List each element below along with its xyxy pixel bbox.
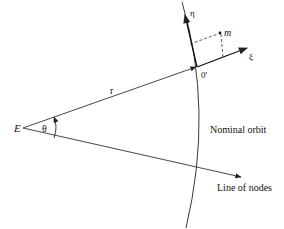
eta-axis <box>185 15 197 67</box>
origin-label: 0' <box>201 70 208 80</box>
mass-point <box>219 32 222 35</box>
mass-label: m <box>224 27 231 38</box>
earth-label: E <box>13 122 21 134</box>
theta-label: θ <box>42 123 47 134</box>
orbit-diagram: E θ r 0' η ξ m Nominal orbit Line of nod… <box>0 0 284 229</box>
nominal-orbit-curve <box>182 2 199 228</box>
nominal-orbit-label: Nominal orbit <box>210 124 267 135</box>
xi-label: ξ <box>249 52 253 62</box>
m-projection-eta <box>190 34 218 44</box>
line-of-nodes <box>23 128 241 177</box>
radius-label: r <box>110 85 114 96</box>
m-projection-xi <box>221 34 223 57</box>
line-of-nodes-label: Line of nodes <box>217 182 272 193</box>
xi-axis <box>197 48 247 67</box>
radius-vector <box>23 67 196 128</box>
eta-label: η <box>190 8 195 18</box>
